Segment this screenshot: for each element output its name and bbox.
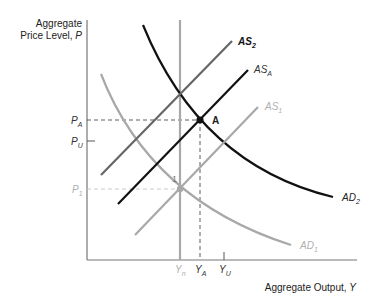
pu-label: PU [71, 136, 84, 149]
as2-label: AS2 [237, 36, 256, 49]
point-a-label: A [212, 115, 219, 126]
p1-label: P1 [72, 184, 83, 197]
point-a [196, 116, 203, 123]
ya-label: YA [195, 264, 207, 277]
y-axis-label-line2: Price Level, P [20, 30, 82, 41]
ad1-label: AD1 [299, 240, 318, 253]
ad2-label: AD2 [341, 192, 360, 205]
point-1-label: 1 [172, 174, 177, 184]
as1-curve [135, 107, 258, 235]
yn-label: Yn [175, 264, 186, 277]
pa-label: PA [71, 115, 83, 128]
ad-as-diagram: Aggregate Price Level, P Aggregate Outpu… [0, 0, 375, 297]
point-1 [177, 186, 183, 192]
ad2-curve [143, 25, 333, 197]
yu-label: YU [219, 264, 232, 277]
asa-label: ASA [253, 64, 272, 77]
x-axis-label: Aggregate Output, Y [265, 282, 358, 293]
ad1-curve [101, 74, 291, 245]
y-axis-label-line1: Aggregate [36, 18, 83, 29]
as1-label: AS1 [264, 101, 282, 114]
